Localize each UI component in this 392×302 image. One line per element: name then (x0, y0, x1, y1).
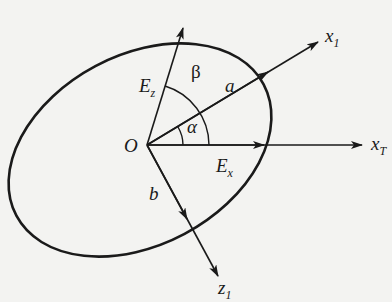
alpha-arc (178, 127, 183, 145)
a-label: a (225, 76, 235, 95)
polarization-ellipse-diagram: O Ez Ex β α a b x1 xT z1 (0, 0, 392, 302)
z1-label: z1 (218, 278, 231, 297)
b-vector (147, 145, 187, 219)
origin-label: O (124, 136, 138, 155)
xt-label: xT (371, 134, 386, 153)
ez-label: Ez (139, 76, 155, 95)
beta-label: β (191, 62, 201, 81)
ex-label: Ex (216, 156, 233, 175)
alpha-label: α (187, 117, 197, 136)
polarization-ellipse (0, 0, 308, 299)
x1-label: x1 (325, 26, 339, 45)
b-label: b (149, 184, 159, 203)
